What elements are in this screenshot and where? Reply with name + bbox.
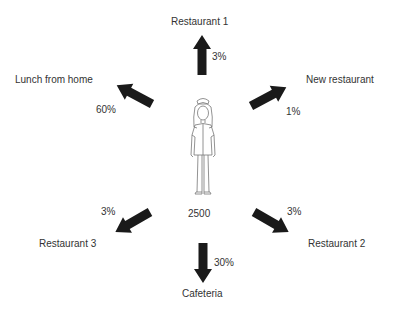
percent-label-lunch-from-home: 60% [96,104,116,115]
destination-label-restaurant-2: Restaurant 2 [308,238,365,249]
destination-label-restaurant-1: Restaurant 1 [171,16,228,27]
arrow-down-icon [194,243,212,283]
destination-label-restaurant-3: Restaurant 3 [39,238,96,249]
percent-label-restaurant-3: 3% [101,206,115,217]
center-total-label: 2500 [188,208,210,219]
percent-label-new-restaurant: 1% [286,106,300,117]
arrow-up-icon [193,35,211,75]
destination-label-cafeteria: Cafeteria [182,288,223,299]
arrow-up-left-icon [112,77,156,112]
percent-label-cafeteria: 30% [214,257,234,268]
nurse-figure-icon [191,99,215,195]
diagram-canvas [0,0,393,309]
destination-label-lunch-from-home: Lunch from home [15,74,93,85]
arrow-up-right-icon [247,79,291,114]
destination-label-new-restaurant: New restaurant [306,74,374,85]
percent-label-restaurant-1: 3% [212,51,226,62]
percent-label-restaurant-2: 3% [287,206,301,217]
arrow-down-left-icon [111,204,155,240]
